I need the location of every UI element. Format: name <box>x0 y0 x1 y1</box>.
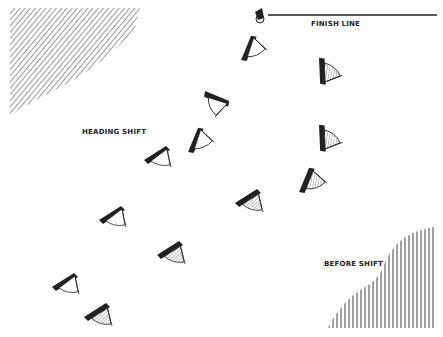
hatched-sail-boat <box>308 52 343 88</box>
top-left-hatched-region <box>10 8 140 115</box>
hatched-sail-boat <box>291 164 327 199</box>
before-shift-label: BEFORE SHIFT <box>324 260 383 268</box>
white-sail-boat <box>180 125 214 158</box>
white-sail-boat <box>144 146 171 167</box>
hatched-sail-boat <box>235 189 263 212</box>
white-sail-boat <box>199 83 232 117</box>
hatched-sail-boat <box>308 119 343 155</box>
white-sail-boat <box>52 273 79 294</box>
hatched-sail-boat <box>157 241 185 264</box>
white-sail-boat <box>99 206 126 227</box>
sailing-diagram <box>0 0 443 337</box>
hatched-sail-boat <box>84 303 112 326</box>
finish-line-label: FINISH LINE <box>311 20 360 28</box>
bottom-right-hatched-region <box>328 226 436 328</box>
heading-shift-label: HEADING SHIFT <box>82 128 146 136</box>
white-sail-boat <box>233 33 267 66</box>
